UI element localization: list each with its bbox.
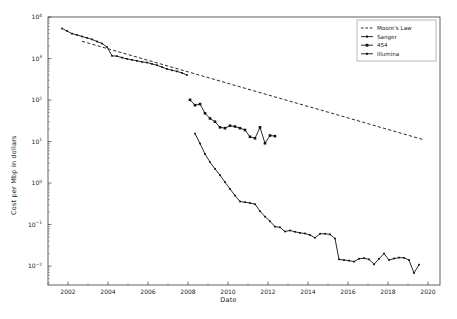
data-point-marker[interactable] <box>269 134 272 137</box>
data-point-marker[interactable] <box>398 257 400 259</box>
data-point-marker[interactable] <box>204 112 207 115</box>
data-point-marker[interactable] <box>358 258 360 260</box>
data-point-marker[interactable] <box>229 188 231 190</box>
data-point-marker[interactable] <box>181 72 183 74</box>
data-point-marker[interactable] <box>319 233 321 235</box>
series-line-sanger[interactable] <box>62 28 187 75</box>
data-point-marker[interactable] <box>249 202 251 204</box>
data-point-marker[interactable] <box>214 168 216 170</box>
data-point-marker[interactable] <box>274 135 277 138</box>
legend-label[interactable]: 454 <box>377 42 388 48</box>
data-point-marker[interactable] <box>254 137 257 140</box>
data-point-marker[interactable] <box>343 259 345 261</box>
data-point-marker[interactable] <box>66 30 68 32</box>
data-point-marker[interactable] <box>234 125 237 128</box>
series-line-illumina[interactable] <box>195 134 419 273</box>
data-point-marker[interactable] <box>269 220 271 222</box>
data-point-marker[interactable] <box>171 69 173 71</box>
data-point-marker[interactable] <box>234 195 236 197</box>
data-point-marker[interactable] <box>418 264 420 266</box>
data-point-marker[interactable] <box>199 143 201 145</box>
data-point-marker[interactable] <box>259 126 262 129</box>
data-point-marker[interactable] <box>219 174 221 176</box>
data-point-marker[interactable] <box>91 39 93 41</box>
chart-legend[interactable]: Moore's LawSanger454Illumina <box>357 20 436 61</box>
data-point-marker[interactable] <box>363 257 365 259</box>
data-point-marker[interactable] <box>373 264 375 266</box>
data-point-marker[interactable] <box>329 234 331 236</box>
data-point-marker[interactable] <box>334 238 336 240</box>
data-point-marker[interactable] <box>146 62 148 64</box>
data-point-marker[interactable] <box>294 231 296 233</box>
data-point-marker[interactable] <box>111 55 113 57</box>
data-point-marker[interactable] <box>338 259 340 261</box>
data-point-marker[interactable] <box>121 57 123 59</box>
data-point-marker[interactable] <box>249 136 252 139</box>
data-point-marker[interactable] <box>244 201 246 203</box>
data-point-marker[interactable] <box>403 257 405 259</box>
data-point-marker[interactable] <box>156 64 158 66</box>
data-point-marker[interactable] <box>224 181 226 183</box>
data-point-marker[interactable] <box>284 231 286 233</box>
legend-label[interactable]: Moore's Law <box>377 25 412 31</box>
data-point-marker[interactable] <box>274 226 276 228</box>
data-point-marker[interactable] <box>259 210 261 212</box>
data-point-marker[interactable] <box>209 161 211 163</box>
data-point-marker[interactable] <box>131 59 133 61</box>
data-series-group[interactable] <box>61 28 424 274</box>
data-point-marker[interactable] <box>204 153 206 155</box>
data-point-marker[interactable] <box>348 260 350 262</box>
data-point-marker[interactable] <box>299 232 301 234</box>
data-point-marker[interactable] <box>194 104 197 107</box>
data-point-marker[interactable] <box>368 259 370 261</box>
data-point-marker[interactable] <box>161 66 163 68</box>
data-point-marker[interactable] <box>289 230 291 232</box>
data-point-marker[interactable] <box>116 55 118 57</box>
data-point-marker[interactable] <box>194 133 196 135</box>
data-point-marker[interactable] <box>264 142 267 145</box>
data-point-marker[interactable] <box>408 259 410 261</box>
legend-label[interactable]: Sanger <box>377 34 398 41</box>
data-point-marker[interactable] <box>199 103 202 106</box>
data-point-marker[interactable] <box>413 272 415 274</box>
data-point-marker[interactable] <box>81 36 83 38</box>
data-point-marker[interactable] <box>393 258 395 260</box>
data-point-marker[interactable] <box>76 34 78 36</box>
data-point-marker[interactable] <box>141 61 143 63</box>
data-point-marker[interactable] <box>383 253 385 255</box>
data-point-marker[interactable] <box>219 126 222 129</box>
data-point-marker[interactable] <box>136 60 138 62</box>
data-point-marker[interactable] <box>126 58 128 60</box>
data-point-marker[interactable] <box>209 117 212 120</box>
legend-label[interactable]: Illumina <box>377 51 399 57</box>
data-point-marker[interactable] <box>106 46 108 48</box>
data-point-marker[interactable] <box>279 226 281 228</box>
data-point-marker[interactable] <box>86 37 88 39</box>
data-point-marker[interactable] <box>378 258 380 260</box>
series-line-454[interactable] <box>190 100 275 143</box>
data-point-marker[interactable] <box>254 203 256 205</box>
data-point-marker[interactable] <box>224 127 227 130</box>
data-point-marker[interactable] <box>239 127 242 130</box>
data-point-marker[interactable] <box>353 261 355 263</box>
data-point-marker[interactable] <box>239 201 241 203</box>
data-point-marker[interactable] <box>388 259 390 261</box>
data-point-marker[interactable] <box>71 33 73 35</box>
data-point-marker[interactable] <box>214 120 217 123</box>
data-point-marker[interactable] <box>189 99 192 102</box>
data-point-marker[interactable] <box>101 43 103 45</box>
data-point-marker[interactable] <box>324 233 326 235</box>
data-point-marker[interactable] <box>151 63 153 65</box>
data-point-marker[interactable] <box>244 129 247 132</box>
data-point-marker[interactable] <box>176 71 178 73</box>
data-point-marker[interactable] <box>229 124 232 127</box>
data-point-marker[interactable] <box>186 74 188 76</box>
data-point-marker[interactable] <box>166 68 168 70</box>
data-point-marker[interactable] <box>61 28 63 30</box>
series-line-moore-s-law[interactable] <box>82 41 424 140</box>
data-point-marker[interactable] <box>264 216 266 218</box>
data-point-marker[interactable] <box>309 234 311 236</box>
data-point-marker[interactable] <box>314 237 316 239</box>
data-point-marker[interactable] <box>304 233 306 235</box>
data-point-marker[interactable] <box>96 41 98 43</box>
